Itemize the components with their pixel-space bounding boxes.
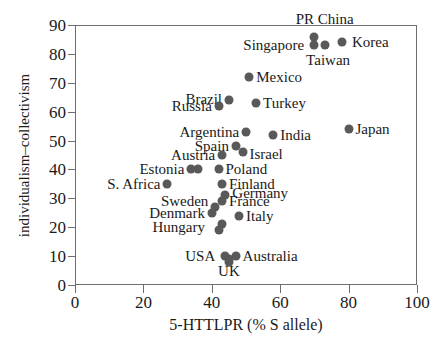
point-label-turkey: Turkey bbox=[263, 96, 306, 111]
data-point-italy[interactable] bbox=[235, 211, 244, 220]
data-point-taiwan[interactable] bbox=[320, 41, 329, 50]
point-label-singapore: Singapore bbox=[243, 38, 304, 53]
y-tick-mark bbox=[68, 83, 76, 84]
data-point-s-africa[interactable] bbox=[163, 179, 172, 188]
y-tick-label: 30 bbox=[26, 190, 66, 207]
data-point-russia[interactable] bbox=[214, 101, 223, 110]
y-tick-mark bbox=[68, 227, 76, 228]
scatter-plot-figure: individualism–collectivism 5-HTTLPR (% S… bbox=[0, 0, 442, 346]
data-point-turkey[interactable] bbox=[252, 99, 261, 108]
data-point-hungary-pair-lower[interactable] bbox=[214, 226, 223, 235]
x-tick-label: 80 bbox=[324, 294, 374, 311]
point-label-israel: Israel bbox=[249, 146, 282, 161]
x-tick-label: 20 bbox=[118, 294, 168, 311]
data-point-estonia-pair-right[interactable] bbox=[194, 165, 203, 174]
data-point-israel[interactable] bbox=[238, 148, 247, 157]
y-tick-label: 40 bbox=[26, 161, 66, 178]
point-label-pr-china: PR China bbox=[296, 12, 354, 27]
data-point-argentina[interactable] bbox=[242, 127, 251, 136]
x-tick-mark bbox=[212, 285, 213, 293]
x-tick-label: 100 bbox=[392, 294, 442, 311]
data-point-india[interactable] bbox=[269, 130, 278, 139]
point-label-hungary: Hungary bbox=[152, 220, 205, 235]
y-tick-label: 50 bbox=[26, 133, 66, 150]
x-tick-label: 40 bbox=[187, 294, 237, 311]
point-label-s-africa: S. Africa bbox=[107, 176, 160, 191]
y-tick-label: 20 bbox=[26, 219, 66, 236]
y-tick-mark bbox=[68, 256, 76, 257]
point-label-usa: USA bbox=[185, 249, 215, 264]
y-tick-label: 60 bbox=[26, 104, 66, 121]
y-tick-label: 80 bbox=[26, 46, 66, 63]
y-tick-label: 0 bbox=[26, 277, 66, 294]
y-tick-mark bbox=[68, 54, 76, 55]
y-tick-label: 10 bbox=[26, 248, 66, 265]
data-point-singapore[interactable] bbox=[310, 41, 319, 50]
point-label-taiwan: Taiwan bbox=[306, 52, 350, 67]
data-point-brazil[interactable] bbox=[224, 96, 233, 105]
x-tick-label: 60 bbox=[255, 294, 305, 311]
point-label-japan: Japan bbox=[355, 122, 389, 137]
data-point-korea[interactable] bbox=[337, 38, 346, 47]
data-point-japan[interactable] bbox=[344, 125, 353, 134]
y-tick-label: 90 bbox=[26, 17, 66, 34]
y-tick-mark bbox=[68, 169, 76, 170]
x-tick-mark bbox=[280, 285, 281, 293]
point-label-russia: Russia bbox=[172, 98, 212, 113]
x-tick-mark bbox=[75, 285, 76, 293]
y-tick-label: 70 bbox=[26, 75, 66, 92]
point-label-mexico: Mexico bbox=[256, 70, 302, 85]
data-point-denmark[interactable] bbox=[207, 208, 216, 217]
data-point-usa-pair-lower[interactable] bbox=[224, 257, 233, 266]
data-point-mexico[interactable] bbox=[245, 73, 254, 82]
y-tick-mark bbox=[68, 141, 76, 142]
point-label-italy: Italy bbox=[246, 208, 274, 223]
y-tick-mark bbox=[68, 112, 76, 113]
data-point-poland[interactable] bbox=[214, 165, 223, 174]
point-label-korea: Korea bbox=[352, 35, 389, 50]
data-point-pr-china[interactable] bbox=[310, 32, 319, 41]
point-label-india: India bbox=[280, 127, 311, 142]
x-tick-mark bbox=[417, 285, 418, 293]
point-label-australia: Australia bbox=[243, 249, 298, 264]
x-tick-label: 0 bbox=[50, 294, 100, 311]
data-point-finland[interactable] bbox=[218, 179, 227, 188]
data-point-austria[interactable] bbox=[218, 151, 227, 160]
y-tick-mark bbox=[68, 25, 76, 26]
x-axis-title: 5-HTTLPR (% S allele) bbox=[75, 316, 417, 334]
y-tick-mark bbox=[68, 198, 76, 199]
x-tick-mark bbox=[349, 285, 350, 293]
x-tick-mark bbox=[143, 285, 144, 293]
